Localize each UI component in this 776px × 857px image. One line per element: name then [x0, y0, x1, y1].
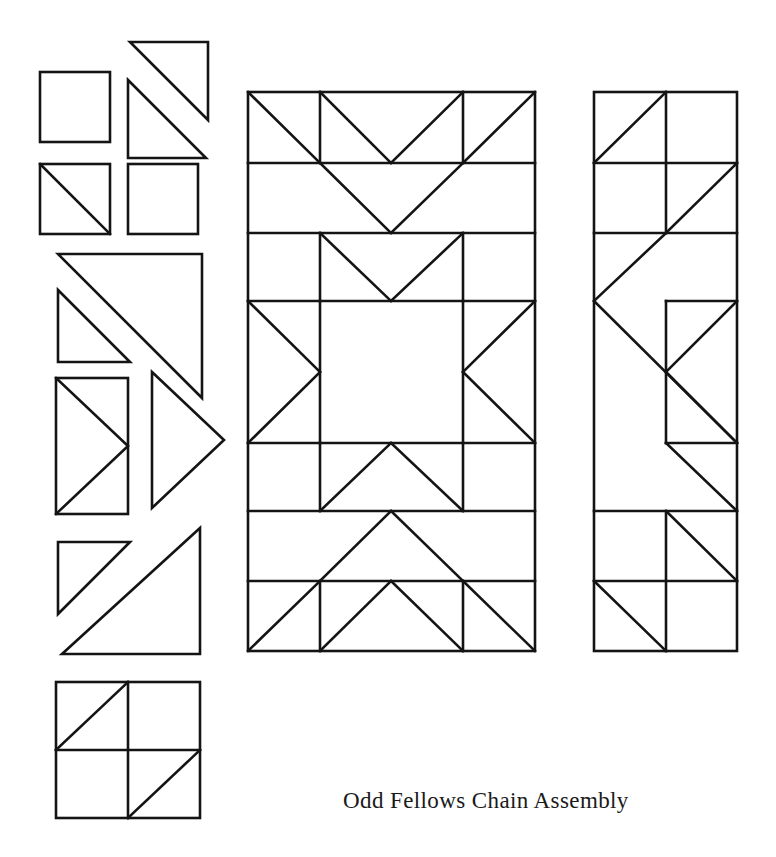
piece-half-square-triangle-upper	[130, 42, 208, 120]
side-mid-tail-diagonal	[666, 443, 737, 511]
center-r4-left-point-lower	[248, 372, 320, 443]
piece-chain-block-diagonal-br	[128, 750, 200, 818]
center-r6-geese-right	[391, 511, 463, 581]
piece-large-triangle-top	[58, 254, 202, 398]
piece-half-square-triangle-lower	[128, 80, 206, 158]
piece-point-triangle-right	[152, 372, 224, 508]
side-bottom-diagonal-bl	[594, 581, 666, 651]
piece-flying-geese-rectangle	[56, 378, 128, 514]
center-r1-corner-tr-diagonal	[463, 92, 535, 163]
center-r1-geese-left	[320, 92, 391, 163]
center-block-outline	[248, 92, 535, 651]
center-r4-right-point-upper	[463, 301, 535, 372]
center-r4-right-point-lower	[463, 372, 535, 443]
piece-chain-block-diagonal-tl	[56, 682, 128, 750]
center-r6-geese-left	[320, 511, 391, 581]
center-r1-geese-right	[391, 92, 463, 163]
quilt-pattern-canvas: Odd Fellows Chain Assembly	[0, 0, 776, 857]
center-r7-corner-br-diagonal	[463, 581, 535, 651]
page-title: Odd Fellows Chain Assembly	[343, 788, 629, 813]
piece-square-diagonal-line	[40, 164, 110, 234]
center-r7-geese-left	[320, 581, 391, 651]
center-r5-geese-right	[391, 443, 463, 511]
center-r2-geese-left	[320, 163, 391, 233]
side-mid-big-arrow-upper	[594, 233, 666, 301]
side-mid-small-arrow-upper	[666, 301, 737, 372]
center-r3-geese-right	[391, 233, 463, 301]
side-strip-group	[594, 92, 737, 651]
piece-flying-geese-point	[56, 378, 128, 514]
side-bottom-diagonal-tr	[666, 511, 737, 581]
side-mid-small-arrow-lower	[666, 372, 737, 443]
piece-plain-square-small	[128, 164, 198, 234]
piece-plain-square-large	[40, 72, 110, 142]
quilt-assembly-diagram: Odd Fellows Chain Assembly	[0, 0, 776, 857]
center-r1-corner-tl-diagonal	[248, 92, 320, 163]
center-r2-geese-right	[391, 163, 463, 233]
center-r4-left-point-upper	[248, 301, 320, 372]
side-top-diagonal-tl	[594, 92, 666, 163]
center-r5-geese-left	[320, 443, 391, 511]
side-top-diagonal-br	[666, 163, 737, 233]
center-r7-geese-right	[391, 581, 463, 651]
piece-small-triangle-nested	[58, 290, 130, 362]
center-r3-geese-left	[320, 233, 391, 301]
center-r7-corner-bl-diagonal	[248, 581, 320, 651]
center-block-group	[248, 92, 535, 651]
legend-pieces-group	[40, 42, 224, 818]
